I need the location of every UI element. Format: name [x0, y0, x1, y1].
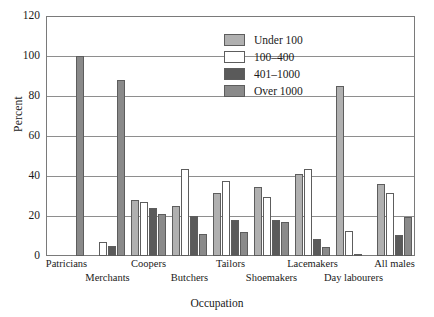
bar — [240, 232, 248, 256]
bar — [99, 242, 107, 256]
legend-item: Over 1000 — [224, 82, 303, 99]
x-axis-tick-label: Lacemakers — [287, 258, 338, 269]
legend-swatch — [224, 68, 245, 80]
bar — [213, 193, 221, 256]
bar — [172, 206, 180, 256]
bar — [254, 187, 262, 256]
y-axis-tick-label: 80 — [4, 90, 40, 101]
bar-group — [336, 16, 371, 256]
bar — [313, 239, 321, 256]
chart-legend: Under 100100–400401–1000Over 1000 — [224, 31, 303, 99]
y-axis-tick-label: 40 — [4, 170, 40, 181]
bar — [131, 200, 139, 256]
bar-chart: Percent 020406080100120 Under 100100–400… — [0, 0, 434, 317]
bar — [322, 247, 330, 256]
y-axis-tick-label: 100 — [4, 50, 40, 61]
legend-swatch — [224, 51, 245, 63]
bar — [336, 86, 344, 256]
legend-item: 100–400 — [224, 48, 303, 65]
bar — [190, 216, 198, 256]
x-axis-tick-label: Coopers — [131, 258, 166, 269]
legend-label: 401–1000 — [254, 68, 300, 80]
legend-item: Under 100 — [224, 31, 303, 48]
bar — [386, 193, 394, 256]
legend-label: Under 100 — [254, 34, 303, 46]
bar — [377, 184, 385, 256]
bar — [295, 174, 303, 256]
bar — [354, 254, 362, 256]
bar — [108, 246, 116, 256]
bar — [117, 80, 125, 256]
bar — [222, 181, 230, 256]
bar — [263, 197, 271, 256]
bar-group — [90, 16, 125, 256]
legend-item: 401–1000 — [224, 65, 303, 82]
bar-group — [377, 16, 412, 256]
legend-swatch — [224, 34, 245, 46]
legend-label: Over 1000 — [254, 85, 303, 97]
bar — [395, 235, 403, 256]
bar — [140, 202, 148, 256]
bar — [158, 214, 166, 256]
y-axis-tick-label: 60 — [4, 130, 40, 141]
bar — [345, 231, 353, 256]
bar — [149, 208, 157, 256]
bar — [181, 169, 189, 256]
legend-label: 100–400 — [254, 51, 294, 63]
x-axis-tick-label: Day labourers — [324, 272, 383, 283]
bar — [199, 234, 207, 256]
x-axis-tick-label: Merchants — [85, 272, 129, 283]
y-axis-tick-label: 120 — [4, 10, 40, 21]
x-axis-tick-label: Patricians — [46, 258, 87, 269]
x-axis-tick-labels: PatriciansMerchantsCoopersButchersTailor… — [0, 258, 434, 290]
bar — [231, 220, 239, 256]
bar — [404, 217, 412, 256]
x-axis-tick-label: Shoemakers — [246, 272, 297, 283]
legend-swatch — [224, 85, 245, 97]
x-axis-tick-label: Butchers — [171, 272, 208, 283]
bar — [272, 220, 280, 256]
bar-group — [49, 16, 84, 256]
x-axis-tick-label: All males — [374, 258, 415, 269]
bar — [281, 222, 289, 256]
bar-group — [172, 16, 207, 256]
bar — [304, 169, 312, 256]
x-axis-title: Occupation — [0, 297, 434, 309]
x-axis-tick-label: Tailors — [216, 258, 245, 269]
y-axis-tick-label: 20 — [4, 210, 40, 221]
bar-group — [131, 16, 166, 256]
bar — [76, 56, 84, 256]
y-axis-title: Percent — [12, 74, 24, 154]
